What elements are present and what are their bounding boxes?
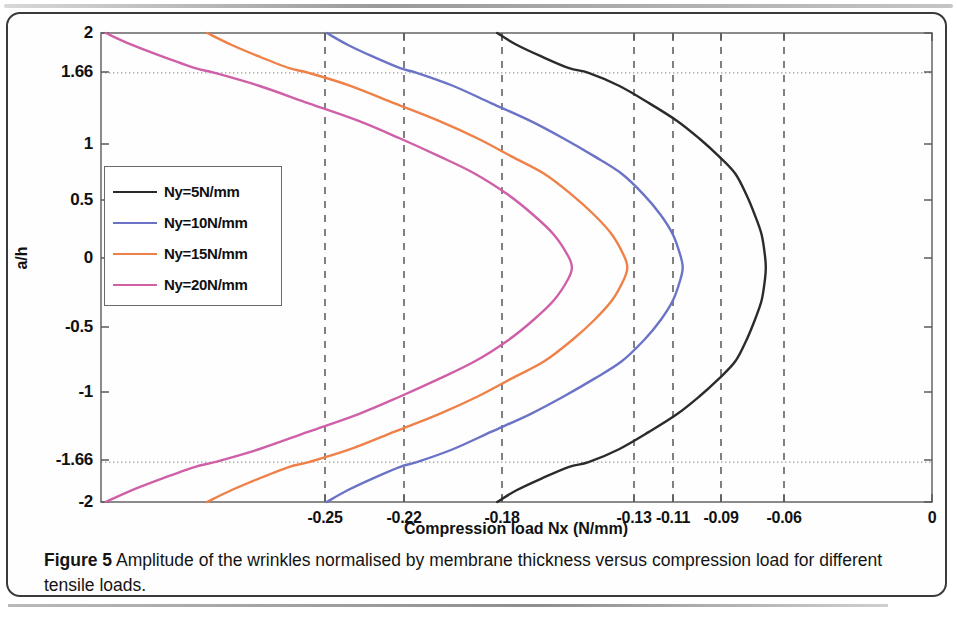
x-tick-label: -0.25 xyxy=(308,509,343,527)
legend-box: Ny=5N/mmNy=10N/mmNy=15N/mmNy=20N/mm xyxy=(104,166,282,306)
page-bottom-rule xyxy=(8,604,888,607)
y-tick-label: -1.66 xyxy=(30,450,93,470)
figure-caption: Figure 5 Amplitude of the wrinkles norma… xyxy=(44,548,899,598)
y-axis-label: a/h xyxy=(13,246,31,269)
caption-body: Amplitude of the wrinkles normalised by … xyxy=(44,550,882,595)
legend-label: Ny=10N/mm xyxy=(164,214,248,231)
legend-label: Ny=15N/mm xyxy=(164,245,248,262)
x-tick-label: -0.09 xyxy=(704,509,739,527)
legend-item-1: Ny=5N/mm xyxy=(113,176,273,207)
legend-item-3: Ny=15N/mm xyxy=(113,238,273,269)
legend-line-swatch xyxy=(113,284,157,286)
legend-item-2: Ny=10N/mm xyxy=(113,207,273,238)
y-tick-label: 2 xyxy=(30,23,93,43)
legend-line-swatch xyxy=(113,253,157,255)
legend-line-swatch xyxy=(113,222,157,224)
y-tick-label: 1 xyxy=(30,134,93,154)
curve-series-2 xyxy=(327,33,683,502)
x-tick-label: -0.18 xyxy=(485,509,520,527)
y-tick-label: -2 xyxy=(30,492,93,512)
legend-label: Ny=5N/mm xyxy=(164,183,240,200)
y-tick-label: 0.5 xyxy=(30,190,93,210)
y-tick-label: 0 xyxy=(30,248,93,268)
y-tick-label: 1.66 xyxy=(30,62,93,82)
y-tick-label: -1 xyxy=(30,382,93,402)
y-tick-label: -0.5 xyxy=(30,317,93,337)
x-tick-label: -0.06 xyxy=(767,509,802,527)
x-tick-label: 0 xyxy=(928,509,937,527)
x-tick-label: -0.13 xyxy=(617,509,652,527)
legend-label: Ny=20N/mm xyxy=(164,276,248,293)
x-tick-label: -0.11 xyxy=(656,509,690,527)
caption-figure-number: Figure 5 xyxy=(44,550,112,570)
figure-5: a/h Compression load Nx (N/mm) 21.6610.5… xyxy=(0,0,957,540)
curve-series-1 xyxy=(497,33,766,502)
legend-line-swatch xyxy=(113,191,157,193)
legend-item-4: Ny=20N/mm xyxy=(113,269,273,300)
x-tick-label: -0.22 xyxy=(387,509,422,527)
